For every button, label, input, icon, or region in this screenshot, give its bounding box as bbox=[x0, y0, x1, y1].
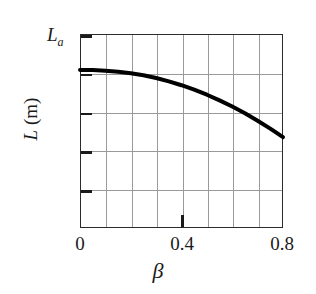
y-axis-top-annotation: La bbox=[47, 25, 64, 48]
y-axis-tick bbox=[81, 190, 92, 193]
plot-area bbox=[80, 34, 283, 228]
gridline-vertical bbox=[157, 35, 158, 227]
x-axis-tick-label: 0.8 bbox=[259, 233, 305, 255]
gridline-vertical bbox=[233, 35, 234, 227]
gridline-horizontal bbox=[81, 190, 282, 191]
gridline-horizontal bbox=[81, 151, 282, 152]
y-axis-tick bbox=[81, 113, 92, 116]
y-axis-label-unit: (m) bbox=[20, 98, 41, 125]
y-axis-tick bbox=[81, 35, 92, 38]
figure-canvas: La L (m) 0 0.4 0.8 β bbox=[0, 0, 316, 294]
y-axis-tick bbox=[81, 74, 92, 77]
gridline-vertical bbox=[106, 35, 107, 227]
x-axis-tick-label: 0 bbox=[62, 233, 98, 255]
gridline-vertical bbox=[132, 35, 133, 227]
x-axis-tick-label: 0.4 bbox=[159, 233, 205, 255]
gridline-horizontal bbox=[81, 113, 282, 114]
gridline-horizontal bbox=[81, 74, 282, 75]
x-axis-label: β bbox=[0, 258, 316, 284]
y-axis-top-annotation-subscript: a bbox=[58, 35, 64, 49]
gridline-vertical bbox=[259, 35, 260, 227]
y-axis-label-symbol: L bbox=[20, 130, 41, 141]
y-axis-label: L (m) bbox=[20, 64, 42, 174]
gridline-vertical bbox=[183, 35, 184, 227]
gridline-vertical bbox=[208, 35, 209, 227]
x-axis-tick-major bbox=[181, 215, 183, 227]
y-axis-tick bbox=[81, 151, 92, 154]
y-axis-top-annotation-symbol: L bbox=[47, 24, 58, 45]
